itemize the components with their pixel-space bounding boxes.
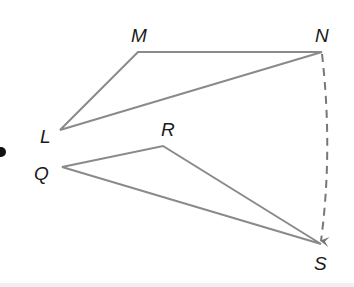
bullet-dot (0, 147, 6, 157)
triangle-lmn (60, 52, 322, 130)
bottom-edge-strip (0, 283, 354, 287)
translation-arrow (321, 54, 327, 241)
triangle-qrs (62, 146, 321, 244)
vertex-label-m: M (131, 25, 147, 46)
vertex-label-l: L (40, 126, 51, 147)
vertex-label-r: R (161, 119, 175, 140)
vertex-label-q: Q (34, 163, 49, 184)
vertex-label-n: N (315, 25, 329, 46)
vertex-label-s: S (314, 253, 327, 274)
translation-diagram: M N L R Q S (0, 0, 354, 287)
